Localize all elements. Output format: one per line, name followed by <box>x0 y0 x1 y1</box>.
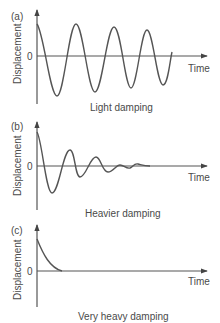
very-heavy-damping-curve <box>37 239 62 271</box>
panel-tag-c: (c) <box>11 225 23 236</box>
panel-c-very-heavy-damping: (c) Displacement 0 Time Very heavy dampi… <box>11 225 210 322</box>
caption-b: Heavier damping <box>85 208 161 219</box>
x-axis-label-a: Time <box>188 63 210 74</box>
light-damping-curve <box>37 24 172 96</box>
damping-diagram: (a) Displacement 0 Time Light damping (b… <box>0 0 220 323</box>
caption-a: Light damping <box>90 102 153 113</box>
x-axis-label-c: Time <box>188 276 210 287</box>
caption-c: Very heavy damping <box>78 311 169 322</box>
zero-label-b: 0 <box>27 161 33 172</box>
y-axis-label-a: Displacement <box>12 23 23 84</box>
panel-a-light-damping: (a) Displacement 0 Time Light damping <box>11 10 210 113</box>
x-axis-label-b: Time <box>188 172 210 183</box>
y-axis-label-c: Displacement <box>12 239 23 300</box>
zero-label-c: 0 <box>27 266 33 277</box>
panel-tag-a: (a) <box>11 11 23 22</box>
panel-b-heavier-damping: (b) Displacement 0 Time Heavier damping <box>11 121 210 219</box>
y-axis-label-b: Displacement <box>12 135 23 196</box>
panel-tag-b: (b) <box>11 121 23 132</box>
heavier-damping-curve <box>37 132 150 193</box>
zero-label-a: 0 <box>27 51 33 62</box>
